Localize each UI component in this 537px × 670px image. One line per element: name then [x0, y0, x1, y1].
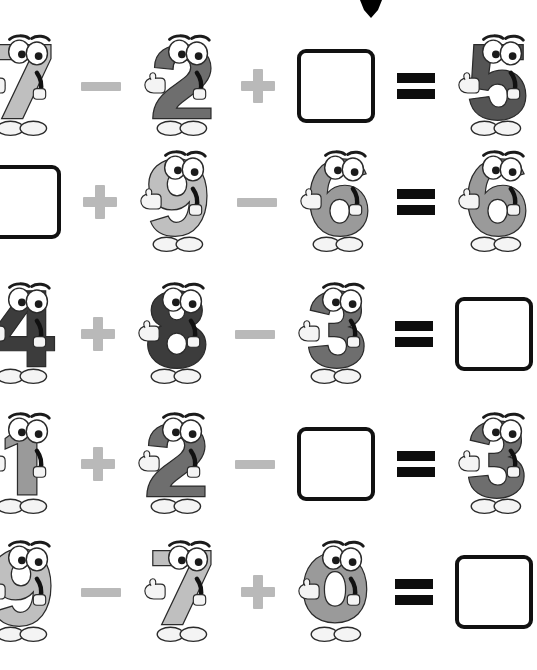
digit-8: 8	[127, 282, 223, 386]
answer-input-box[interactable]	[297, 427, 375, 501]
minus-operator	[235, 460, 275, 469]
operator-equals	[395, 319, 433, 349]
digit-character-3	[287, 282, 383, 386]
answer-input-box[interactable]	[0, 165, 61, 239]
digit-9: 9	[0, 540, 69, 644]
operator-plus	[81, 447, 115, 481]
digit-character-6	[447, 150, 537, 254]
plus-icon	[241, 575, 275, 609]
plus-operator	[81, 317, 115, 351]
digit-3-result: 3	[447, 412, 537, 516]
answer-box[interactable]	[455, 555, 533, 629]
digit-1: 1	[0, 412, 69, 516]
operator-minus	[235, 330, 275, 339]
equals-icon	[397, 71, 435, 101]
equals-icon	[397, 449, 435, 479]
digit-character-9	[0, 540, 69, 644]
digit-6-result: 6	[447, 150, 537, 254]
minus-icon	[81, 588, 121, 597]
digit-0: 0	[287, 540, 383, 644]
digit-character-3	[447, 412, 537, 516]
operator-plus	[241, 575, 275, 609]
equals-icon	[397, 187, 435, 217]
minus-operator	[235, 330, 275, 339]
plus-operator	[81, 447, 115, 481]
plus-icon	[81, 447, 115, 481]
plus-operator	[83, 185, 117, 219]
minus-icon	[235, 330, 275, 339]
answer-box[interactable]	[0, 165, 61, 239]
digit-9: 9	[129, 150, 225, 254]
equals-operator	[397, 187, 435, 217]
operator-equals	[397, 449, 435, 479]
digit-character-7	[133, 540, 229, 644]
digit-character-2	[127, 412, 223, 516]
digit-4: 4	[0, 282, 69, 386]
equals-operator	[395, 319, 433, 349]
answer-input-box[interactable]	[297, 49, 375, 123]
operator-equals	[397, 187, 435, 217]
equation-row-4: 1 2	[0, 412, 515, 516]
equals-icon	[395, 319, 433, 349]
digit-2: 2	[133, 34, 229, 138]
digit-7: 7	[0, 34, 69, 138]
operator-minus	[235, 460, 275, 469]
operator-plus	[241, 69, 275, 103]
digit-character-7	[0, 34, 69, 138]
digit-character-0	[287, 540, 383, 644]
plus-icon	[81, 317, 115, 351]
minus-icon	[81, 82, 121, 91]
operator-plus	[83, 185, 117, 219]
digit-3: 3	[287, 282, 383, 386]
minus-operator	[81, 82, 121, 91]
equals-operator	[397, 449, 435, 479]
plus-operator	[241, 575, 275, 609]
digit-6: 6	[289, 150, 385, 254]
equals-operator	[397, 71, 435, 101]
equals-operator	[395, 577, 433, 607]
operator-minus	[81, 588, 121, 597]
answer-box[interactable]	[455, 297, 533, 371]
answer-input-box[interactable]	[455, 555, 533, 629]
down-triangle-cursor	[359, 0, 383, 18]
answer-input-box[interactable]	[455, 297, 533, 371]
digit-character-9	[129, 150, 225, 254]
equation-row-3: 4 8	[0, 282, 515, 386]
digit-character-4	[0, 282, 69, 386]
operator-equals	[397, 71, 435, 101]
digit-character-2	[133, 34, 229, 138]
operator-minus	[237, 198, 277, 207]
digit-character-6	[289, 150, 385, 254]
plus-icon	[83, 185, 117, 219]
equals-icon	[395, 577, 433, 607]
operator-minus	[81, 82, 121, 91]
equation-row-2: 9 6	[0, 150, 515, 254]
minus-icon	[237, 198, 277, 207]
digit-character-8	[127, 282, 223, 386]
equation-row-1: 7 2	[0, 34, 515, 138]
plus-operator	[241, 69, 275, 103]
minus-operator	[237, 198, 277, 207]
operator-plus	[81, 317, 115, 351]
digit-character-1	[0, 412, 69, 516]
digit-5: 5	[447, 34, 537, 138]
digit-2: 2	[127, 412, 223, 516]
minus-operator	[81, 588, 121, 597]
digit-7: 7	[133, 540, 229, 644]
minus-icon	[235, 460, 275, 469]
digit-character-5	[447, 34, 537, 138]
answer-box[interactable]	[297, 427, 375, 501]
answer-box[interactable]	[297, 49, 375, 123]
plus-icon	[241, 69, 275, 103]
equation-row-5: 9 7	[0, 540, 515, 644]
operator-equals	[395, 577, 433, 607]
